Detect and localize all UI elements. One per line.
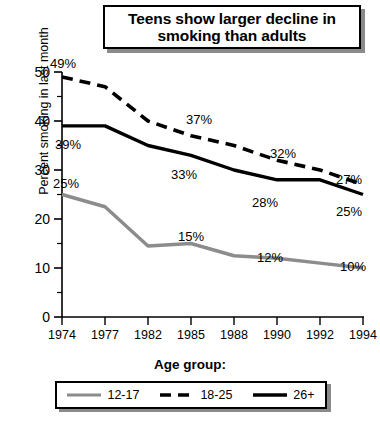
legend-title: Age group: xyxy=(0,357,380,372)
data-label-18-25-1994: 27% xyxy=(336,172,362,187)
data-label-18-25-1985: 37% xyxy=(186,112,212,127)
data-label-26plus-1994: 25% xyxy=(336,204,362,219)
series-line-26plus xyxy=(62,126,363,195)
legend-swatch-dashed-black-icon xyxy=(160,391,194,399)
legend-swatch-solid-black-icon xyxy=(253,391,287,399)
x-axis-ticks xyxy=(62,317,363,325)
chart-legend: 12-17 18-25 26+ xyxy=(55,381,327,409)
legend-label-26plus: 26+ xyxy=(293,388,314,402)
legend-item-26plus[interactable]: 26+ xyxy=(253,388,314,402)
series-line-12-17 xyxy=(62,195,363,269)
data-label-12-17-1985: 15% xyxy=(178,229,204,244)
x-tick-label-1992: 1992 xyxy=(298,328,342,342)
x-tick-label-1994: 1994 xyxy=(341,328,380,342)
series-line-18-25 xyxy=(62,77,363,185)
data-label-12-17-1994: 10% xyxy=(340,259,366,274)
y-tick-label-0: 0 xyxy=(20,309,50,325)
data-label-18-25-1974: 49% xyxy=(50,56,76,71)
y-tick-label-30: 30 xyxy=(20,162,50,178)
data-label-26plus-1990: 28% xyxy=(252,195,278,210)
x-tick-label-1990: 1990 xyxy=(255,328,299,342)
data-label-12-17-1990: 12% xyxy=(257,250,283,265)
y-tick-label-40: 40 xyxy=(20,113,50,129)
legend-item-12-17[interactable]: 12-17 xyxy=(67,388,139,402)
x-tick-label-1988: 1988 xyxy=(212,328,256,342)
y-tick-label-50: 50 xyxy=(20,64,50,80)
data-label-18-25-1990: 32% xyxy=(270,146,296,161)
x-tick-label-1982: 1982 xyxy=(126,328,170,342)
data-label-26plus-1974: 39% xyxy=(55,137,81,152)
legend-label-12-17: 12-17 xyxy=(107,388,139,402)
chart-figure: Teens show larger decline in smoking tha… xyxy=(0,0,380,423)
legend-swatch-solid-gray-icon xyxy=(67,391,101,399)
clipped-bottom-text xyxy=(0,414,380,423)
x-tick-label-1974: 1974 xyxy=(40,328,84,342)
x-tick-label-1985: 1985 xyxy=(169,328,213,342)
legend-label-18-25: 18-25 xyxy=(200,388,232,402)
data-label-12-17-1974: 25% xyxy=(53,176,79,191)
data-label-26plus-1985: 33% xyxy=(171,167,197,182)
y-tick-label-20: 20 xyxy=(20,211,50,227)
y-tick-label-10: 10 xyxy=(20,260,50,276)
x-tick-label-1977: 1977 xyxy=(83,328,127,342)
legend-item-18-25[interactable]: 18-25 xyxy=(160,388,232,402)
